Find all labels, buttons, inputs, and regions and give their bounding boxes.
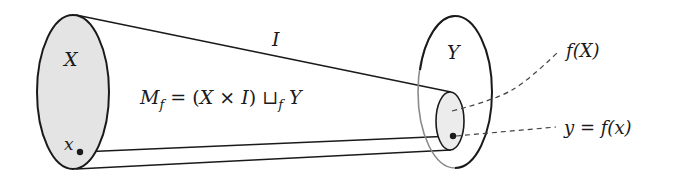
point-x [77,149,83,155]
formula-sqcup: ⊔ [262,86,278,108]
path-x-to-y [80,136,453,152]
point-y [450,133,456,139]
label-fX: f(X) [564,40,600,61]
cylinder-top-edge [76,15,451,92]
formula-close-paren: ) [249,86,262,108]
cylinder-bottom-edge [76,150,451,169]
formula-X: X [198,86,215,108]
label-y-eq-fx: y = f(x) [563,117,632,138]
space-Y-visible-arc [455,16,492,168]
leader-y [456,127,556,136]
formula-times: × [213,86,241,108]
mapping-cylinder-diagram: X x I Y f(X) y = f(x) Mf = (X × I) ⊔f Y [0,0,686,184]
label-I: I [271,28,280,50]
leader-fX [452,52,558,111]
formula-M: M [139,86,160,108]
label-X: X [62,48,79,70]
formula-mapping-cylinder: Mf = (X × I) ⊔f Y [139,86,304,112]
label-x: x [64,134,74,154]
formula-Y: Y [283,86,304,108]
label-Y: Y [447,41,462,63]
formula-eq-paren: = ( [164,86,199,108]
image-fX-ellipse [436,92,464,150]
